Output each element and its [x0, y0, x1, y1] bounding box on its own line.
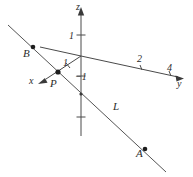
x-axis-tick-label-1: 1	[63, 58, 68, 68]
z-axis-label: z	[76, 2, 80, 12]
math-figure: z y x A B P L 1 1 −1 2 4	[0, 0, 193, 177]
figure-canvas	[0, 0, 193, 177]
point-P-label: P	[50, 78, 57, 89]
point-B-label: B	[23, 48, 30, 59]
point-A-dot	[143, 147, 148, 152]
y-axis-negative	[40, 47, 81, 56]
point-B-dot	[31, 45, 36, 50]
y-axis-label: y	[177, 79, 181, 89]
line-z-axis-intersection-dot	[79, 92, 82, 95]
line-L-label: L	[113, 101, 119, 112]
y-axis-tick-label-2: 2	[137, 54, 142, 64]
point-A-label: A	[136, 148, 143, 159]
z-axis-tick-label-minus-1: −1	[75, 72, 87, 82]
y-axis-tick-label-4: 4	[167, 63, 172, 73]
point-P-dot	[55, 69, 60, 74]
x-axis-label: x	[29, 76, 33, 86]
z-axis-tick-label-1: 1	[69, 31, 74, 41]
y-axis	[81, 56, 178, 77]
